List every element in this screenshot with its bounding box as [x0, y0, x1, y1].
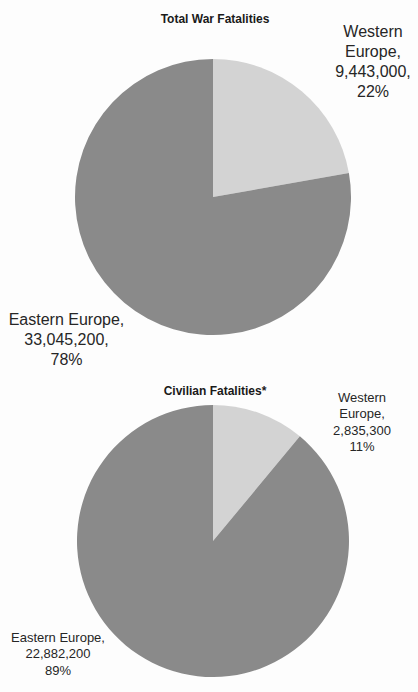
data-label-western-civilian: Western Europe, 2,835,300 11%: [312, 390, 412, 455]
pie-civilian-fatalities: [77, 405, 349, 677]
data-label-eastern-total: Eastern Europe, 33,045,200, 78%: [4, 310, 129, 370]
chart-title-total: Total War Fatalities: [130, 12, 300, 26]
data-label-western-total: Western Europe, 9,443,000, 22%: [318, 22, 418, 102]
pie-total-war-fatalities: [75, 59, 351, 335]
data-label-eastern-civilian: Eastern Europe, 22,882,200 89%: [8, 630, 108, 679]
chart-title-civilian: Civilian Fatalities*: [140, 384, 290, 398]
